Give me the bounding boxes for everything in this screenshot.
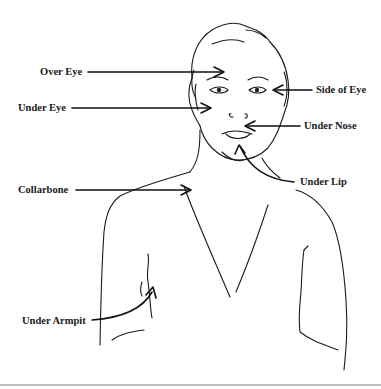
- label-over-eye: Over Eye: [40, 66, 82, 78]
- arrow-side-of-eye: [273, 85, 312, 95]
- label-under-lip: Under Lip: [300, 176, 347, 188]
- label-under-nose: Under Nose: [304, 120, 357, 132]
- tapping-points-diagram: Over Eye Under Eye Side of Eye Under Nos…: [0, 0, 381, 389]
- arrow-under-nose: [245, 121, 300, 131]
- label-side-of-eye: Side of Eye: [316, 84, 366, 96]
- label-under-armpit: Under Armpit: [22, 315, 86, 327]
- label-collarbone: Collarbone: [18, 184, 68, 196]
- head-sketch: [189, 23, 289, 160]
- body-sketch: [0, 130, 381, 385]
- arrow-collarbone: [76, 185, 191, 195]
- arrow-over-eye: [88, 67, 224, 77]
- label-under-eye: Under Eye: [18, 102, 66, 114]
